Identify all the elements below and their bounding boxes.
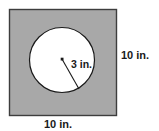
radius-dimension-label: 3 in. <box>71 58 92 70</box>
bottom-side-dimension-label: 10 in. <box>44 118 72 130</box>
right-side-dimension-label: 10 in. <box>121 49 149 61</box>
center-point-marker <box>61 58 64 61</box>
